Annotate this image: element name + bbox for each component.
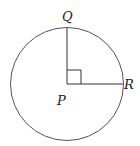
label-r: R — [123, 77, 134, 92]
label-q: Q — [62, 9, 73, 24]
circle-diagram: Q P R — [0, 0, 140, 146]
right-angle-marker — [67, 70, 81, 84]
label-p: P — [56, 93, 66, 108]
